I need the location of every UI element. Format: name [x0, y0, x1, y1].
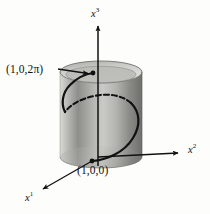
- cylinder-shape: [60, 61, 142, 168]
- axis-label-x3: x3: [91, 6, 99, 19]
- axis-label-x1-superscript: 1: [30, 190, 34, 198]
- axis-label-x2-superscript: 2: [193, 142, 197, 150]
- helix-cylinder-diagram: [0, 0, 210, 214]
- point-label-bottom: (1,0,0): [77, 164, 108, 176]
- axis-label-x1: x1: [25, 190, 33, 203]
- axis-label-x3-superscript: 3: [96, 6, 100, 14]
- axis-label-x2: x2: [188, 142, 196, 155]
- point-label-top: (1,0,2π): [6, 63, 43, 75]
- helix-end-point-marker: [91, 71, 96, 76]
- helix-start-point-marker: [90, 159, 95, 164]
- figure-canvas: (1,0,2π) (1,0,0) x3 x2 x1: [0, 0, 210, 214]
